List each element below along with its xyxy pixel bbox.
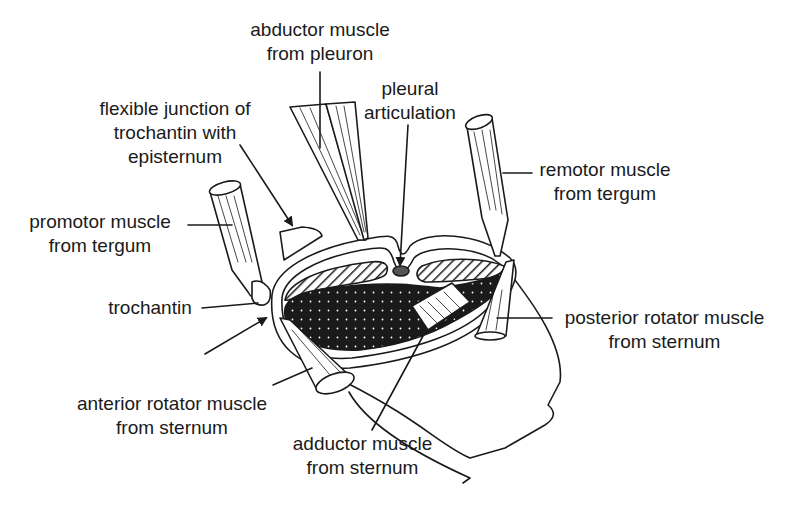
label-remotor-muscle-from-tergum: remotor muscle from tergum bbox=[535, 158, 675, 206]
pleural-articulation-knob bbox=[393, 266, 409, 276]
leader-pleural-articulation bbox=[400, 125, 408, 265]
leader-trochantin bbox=[202, 303, 258, 308]
leader-anterior-rotator bbox=[273, 368, 312, 385]
label-trochantin: trochantin bbox=[100, 296, 200, 320]
trochantin-shape bbox=[252, 281, 270, 305]
promotor-muscle bbox=[210, 184, 262, 297]
label-abductor-muscle-from-pleuron: abductor muscle from pleuron bbox=[245, 18, 395, 66]
leader-flex-arrow bbox=[205, 318, 266, 354]
remotor-muscle bbox=[467, 118, 508, 256]
coxa-diagram: abductor muscle from pleuron pleural art… bbox=[0, 0, 792, 505]
label-adductor-muscle-from-sternum: adductor muscle from sternum bbox=[280, 432, 445, 480]
label-posterior-rotator-muscle: posterior rotator muscle from sternum bbox=[552, 306, 777, 354]
label-flexible-junction: flexible junction of trochantin with epi… bbox=[80, 97, 270, 169]
label-pleural-articulation: pleural articulation bbox=[355, 77, 465, 125]
label-promotor-muscle-from-tergum: promotor muscle from tergum bbox=[15, 210, 185, 258]
label-anterior-rotator-muscle: anterior rotator muscle from sternum bbox=[62, 392, 282, 440]
